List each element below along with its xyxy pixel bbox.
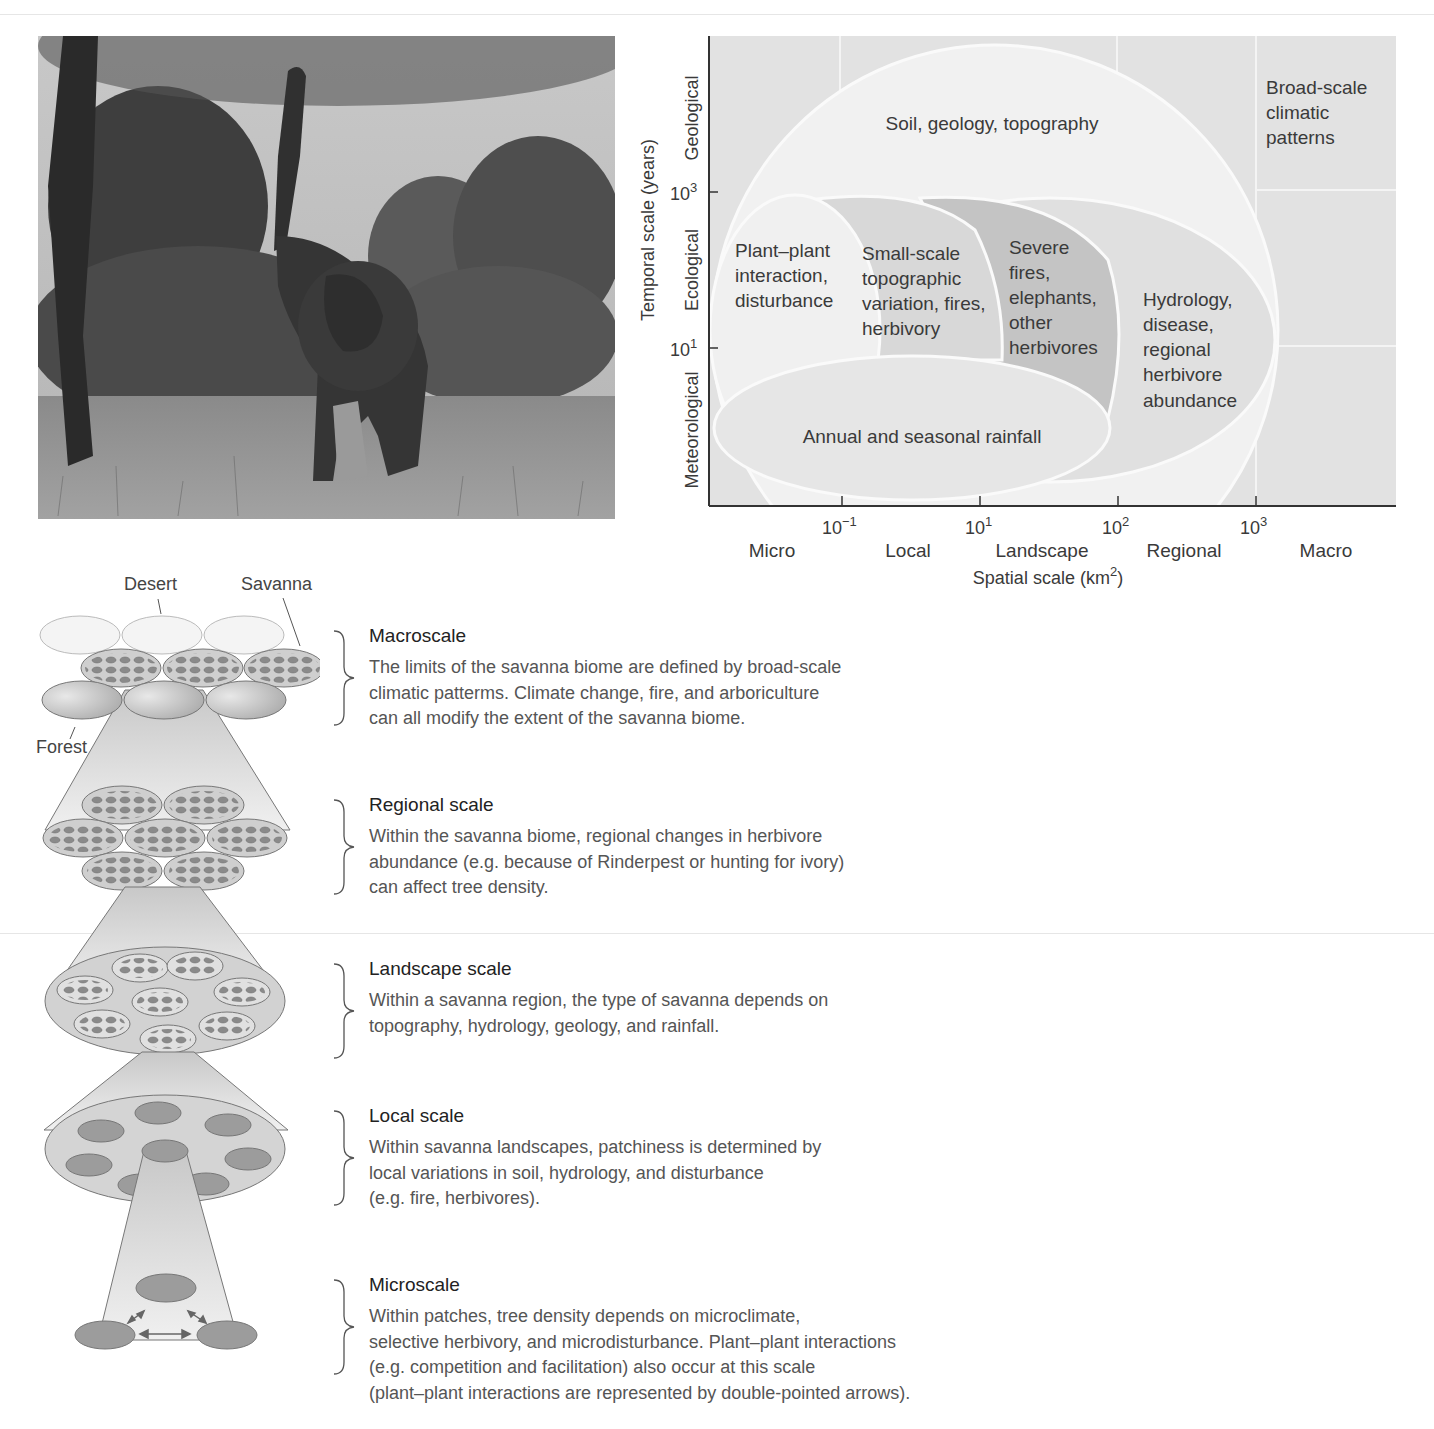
x-category-micro: Micro [749,540,795,561]
scale-title: Local scale [369,1105,464,1127]
region-label-plant-plant: Plant–plant interaction, disturbance [735,240,835,311]
curly-brace-icon [330,962,358,1062]
scale-diagram-chart: Temporal scale (years) Geological Ecolog… [630,30,1420,600]
y-category-meteorological: Meteorological [682,371,702,488]
x-category-regional: Regional [1147,540,1222,561]
y-tick-label-10: 101 [670,336,697,360]
curly-brace-icon [330,1278,358,1378]
label-savanna: Savanna [241,574,312,595]
y-category-geological: Geological [682,75,702,160]
curly-brace-icon [330,798,358,898]
scale-text: Within patches, tree density depends on … [369,1304,1049,1406]
label-desert: Desert [124,574,177,595]
region-label-rainfall: Annual and seasonal rainfall [803,426,1042,447]
x-category-macro: Macro [1300,540,1353,561]
x-category-local: Local [885,540,930,561]
y-axis-label: Temporal scale (years) [638,139,658,321]
nested-scale-illustration: Desert Savanna Forest [20,565,320,1385]
curly-brace-icon [330,1109,358,1209]
x-tick-label-10: 101 [965,514,992,538]
y-tick-label-1000: 103 [670,180,697,204]
elephant-photo [38,36,615,519]
scale-chart-svg: Temporal scale (years) Geological Ecolog… [630,30,1420,600]
scale-text: Within a savanna region, the type of sav… [369,988,1049,1039]
scale-text: Within savanna landscapes, patchiness is… [369,1135,1049,1212]
curly-brace-icon [330,629,358,729]
x-category-landscape: Landscape [996,540,1089,561]
x-tick-label-0.1: 10−1 [822,514,857,538]
scale-title: Landscape scale [369,958,512,980]
label-forest: Forest [36,737,87,758]
x-tick-label-1000: 103 [1240,514,1267,538]
y-category-ecological: Ecological [682,229,702,311]
scale-title: Microscale [369,1274,460,1296]
elephant-photo-illustration [38,36,615,519]
scale-text: The limits of the savanna biome are defi… [369,655,1049,732]
nested-scale-svg [20,565,320,1385]
x-axis-label: Spatial scale (km2) [973,564,1123,588]
divider-line [0,14,1434,15]
scale-text: Within the savanna biome, regional chang… [369,824,1049,901]
x-tick-label-100: 102 [1102,514,1129,538]
region-label-soil: Soil, geology, topography [885,113,1099,134]
scale-title: Regional scale [369,794,494,816]
scale-title: Macroscale [369,625,466,647]
